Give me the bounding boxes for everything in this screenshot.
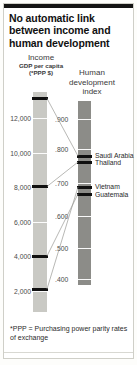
- hdi-marker-saudi-arabia: [77, 155, 92, 158]
- income-axis-heading-line1: Income: [13, 53, 69, 62]
- income-marker-guatemala: [32, 255, 48, 258]
- infographic-panel: No automatic link between income and hum…: [0, 0, 137, 365]
- hdi-tick-900: .900: [55, 116, 79, 123]
- income-axis-heading: Income GDP per capita (*PPP $): [13, 53, 69, 77]
- country-label-thailand: Thailand: [95, 159, 121, 166]
- hdi-gridline-800: [78, 149, 91, 150]
- income-gridline-6000: [33, 222, 47, 223]
- income-gridline-10000: [33, 153, 47, 154]
- hdi-gridline-500: [78, 248, 91, 249]
- hdi-tick-800: .800: [55, 146, 79, 153]
- hdi-tick-500: .500: [55, 245, 79, 252]
- income-tick-10000: 10,000: [5, 150, 31, 157]
- hdi-gridline-600: [78, 216, 91, 217]
- hdi-marker-vietnam: [77, 186, 92, 189]
- hdi-tick-700: .700: [55, 180, 79, 187]
- income-gridline-2000: [33, 291, 47, 292]
- income-axis-heading-line2: GDP per capita: [13, 62, 69, 69]
- hdi-axis-heading: Human development index: [62, 68, 122, 97]
- page-title: No automatic link between income and hum…: [9, 12, 129, 49]
- income-bar: [33, 92, 47, 312]
- hdi-marker-guatemala: [77, 193, 92, 196]
- top-rule: [4, 4, 133, 8]
- income-marker-saudi-arabia: [32, 97, 48, 100]
- income-tick-4000: 4,000: [5, 253, 31, 260]
- hdi-gridline-400: [78, 279, 91, 280]
- country-label-vietnam: Vietnam: [95, 183, 120, 190]
- income-tick-2000: 2,000: [5, 288, 31, 295]
- country-label-guatemala: Guatemala: [95, 191, 128, 198]
- income-marker-thailand: [32, 185, 48, 188]
- income-gridline-12000: [33, 118, 47, 119]
- income-marker-vietnam: [32, 288, 48, 291]
- income-axis-heading-line3: (*PPP $): [13, 69, 69, 76]
- hdi-bar: [78, 101, 91, 285]
- income-tick-8000: 8,000: [5, 184, 31, 191]
- hdi-gridline-900: [78, 119, 91, 120]
- hdi-marker-thailand: [77, 161, 92, 164]
- income-tick-12000: 12,000: [5, 115, 31, 122]
- hdi-tick-400: .400: [55, 276, 79, 283]
- country-label-saudi-arabia: Saudi Arabia: [95, 152, 134, 159]
- bottom-edge: [4, 352, 133, 353]
- hdi-tick-600: .600: [55, 213, 79, 220]
- footnote: *PPP = Purchasing power parity rates of …: [10, 325, 128, 342]
- income-tick-6000: 6,000: [5, 219, 31, 226]
- hdi-gridline-700: [78, 183, 91, 184]
